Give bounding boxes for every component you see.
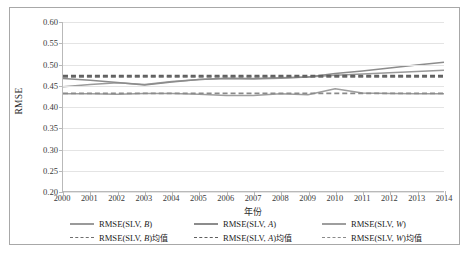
chart-plot-area: RMSE 0.200.250.300.350.400.450.500.550.6… bbox=[10, 8, 461, 246]
y-tick-mark bbox=[59, 65, 63, 66]
series-line bbox=[63, 89, 444, 96]
plot-axes bbox=[62, 22, 444, 192]
y-tick-label: 0.55 bbox=[30, 39, 58, 48]
legend-label: RMSE(SLV, A) bbox=[223, 219, 276, 229]
gridline bbox=[63, 65, 444, 66]
legend-row-dashed: RMSE(SLV, B)均值RMSE(SLV, A)均值RMSE(SLV, W)… bbox=[32, 231, 450, 244]
legend-label: RMSE(SLV, B)均值 bbox=[99, 232, 168, 243]
legend-swatch-dashed-icon bbox=[322, 234, 346, 242]
legend-row-solid: RMSE(SLV, B)RMSE(SLV, A)RMSE(SLV, W) bbox=[32, 217, 450, 230]
legend-item[interactable]: RMSE(SLV, W)均值 bbox=[322, 231, 422, 244]
y-tick-mark bbox=[59, 22, 63, 23]
y-axis-tick-labels: 0.200.250.300.350.400.450.500.550.60 bbox=[30, 22, 58, 192]
legend-label: RMSE(SLV, B) bbox=[99, 219, 152, 229]
y-tick-mark bbox=[59, 107, 63, 108]
gridline bbox=[63, 107, 444, 108]
y-tick-label: 0.35 bbox=[30, 124, 58, 133]
gridline bbox=[63, 22, 444, 23]
y-tick-label: 0.45 bbox=[30, 81, 58, 90]
legend-item[interactable]: RMSE(SLV, B) bbox=[70, 217, 152, 230]
legend-swatch-dashed-icon bbox=[70, 234, 94, 242]
chart-legend: RMSE(SLV, B)RMSE(SLV, A)RMSE(SLV, W) RMS… bbox=[32, 217, 450, 245]
chart-frame: RMSE 0.200.250.300.350.400.450.500.550.6… bbox=[9, 7, 460, 245]
y-tick-label: 0.25 bbox=[30, 166, 58, 175]
legend-item[interactable]: RMSE(SLV, W) bbox=[322, 217, 406, 230]
y-tick-mark bbox=[59, 86, 63, 87]
legend-item[interactable]: RMSE(SLV, B)均值 bbox=[70, 231, 168, 244]
y-tick-mark bbox=[59, 171, 63, 172]
gridline bbox=[63, 43, 444, 44]
legend-label: RMSE(SLV, A)均值 bbox=[223, 232, 292, 243]
y-axis-title: RMSE bbox=[14, 71, 24, 131]
gridline bbox=[63, 128, 444, 129]
legend-label: RMSE(SLV, W)均值 bbox=[351, 232, 422, 243]
legend-item[interactable]: RMSE(SLV, A)均值 bbox=[194, 231, 292, 244]
y-tick-mark bbox=[59, 128, 63, 129]
legend-swatch-dashed-icon bbox=[194, 234, 218, 242]
gridline bbox=[63, 171, 444, 172]
y-tick-mark bbox=[59, 43, 63, 44]
legend-swatch-solid-icon bbox=[194, 220, 218, 228]
y-tick-mark bbox=[59, 150, 63, 151]
legend-swatch-solid-icon bbox=[70, 220, 94, 228]
legend-item[interactable]: RMSE(SLV, A) bbox=[194, 217, 276, 230]
legend-label: RMSE(SLV, W) bbox=[351, 219, 406, 229]
x-tick-label: 2014 bbox=[427, 194, 461, 204]
y-tick-label: 0.50 bbox=[30, 60, 58, 69]
legend-swatch-solid-icon bbox=[322, 220, 346, 228]
y-tick-label: 0.40 bbox=[30, 103, 58, 112]
gridline bbox=[63, 150, 444, 151]
y-tick-label: 0.30 bbox=[30, 145, 58, 154]
y-tick-label: 0.60 bbox=[30, 18, 58, 27]
gridline bbox=[63, 86, 444, 87]
